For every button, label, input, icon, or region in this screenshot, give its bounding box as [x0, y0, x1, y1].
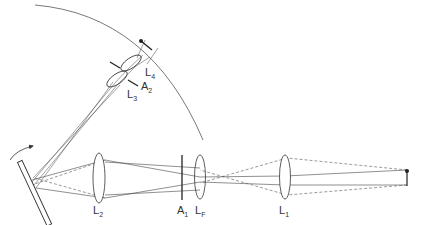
label-a2: A2 [141, 80, 152, 94]
label-l3: L3 [127, 88, 137, 102]
label-l1: L1 [279, 204, 289, 218]
image-point [139, 39, 152, 50]
label-lf: LF [195, 204, 205, 218]
lens-l1 [280, 155, 291, 199]
lens-l2 [93, 153, 105, 203]
object-source [405, 169, 409, 186]
label-l4: L4 [145, 66, 155, 80]
label-l2: L2 [93, 204, 103, 218]
dashed-rays [32, 158, 407, 198]
lens-l3 [104, 68, 129, 90]
optical-diagram: L1 LF A1 L2 L3 A2 L4 [0, 0, 422, 225]
reflected-rays [32, 55, 150, 188]
aperture-a2-b [128, 80, 138, 86]
label-a1: A1 [177, 204, 188, 218]
aperture-a2 [110, 62, 120, 68]
rotation-arrow-icon [10, 146, 33, 160]
